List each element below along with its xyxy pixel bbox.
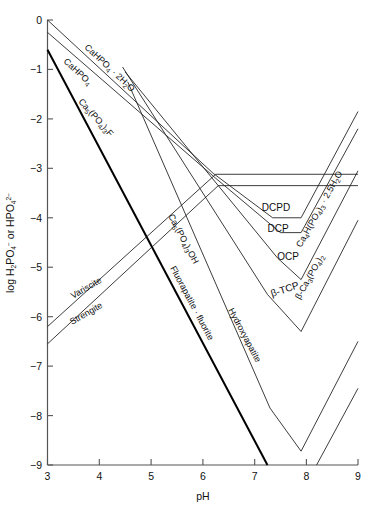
x-tick-label-8: 8 — [303, 470, 309, 482]
y-title-conj: or HPO — [4, 204, 16, 242]
x-axis-title: pH — [196, 490, 209, 502]
label-dcp: DCP — [267, 223, 288, 234]
y-tick-label-1: −1 — [30, 63, 42, 75]
y-tick-label-7: −7 — [30, 360, 42, 372]
phosphate-solubility-chart: 0 −1 −2 −3 −4 −5 −6 −7 −8 −9 3 4 5 6 7 8… — [0, 0, 376, 510]
svg-text:log H2PO4− or HPO42−: log H2PO4− or HPO42− — [4, 193, 17, 293]
x-tick-label-6: 6 — [200, 470, 206, 482]
chart-svg: 0 −1 −2 −3 −4 −5 −6 −7 −8 −9 3 4 5 6 7 8… — [0, 0, 376, 510]
y-tick-label-2: −2 — [30, 113, 42, 125]
y-axis-title: log H2PO4− or HPO42− — [4, 193, 17, 293]
y-title-mid: PO — [4, 250, 16, 265]
y-tick-label-5: −5 — [30, 261, 42, 273]
x-tick-label-7: 7 — [252, 470, 258, 482]
y-title-sup2: 2− — [5, 193, 12, 201]
x-tick-label-3: 3 — [45, 470, 51, 482]
x-tick-label-9: 9 — [355, 470, 361, 482]
y-tick-label-8: −8 — [30, 410, 42, 422]
y-title-lead: log H — [4, 269, 16, 294]
y-tick-label-3: −3 — [30, 162, 42, 174]
y-tick-label-9: −9 — [30, 459, 42, 471]
y-tick-label-4: −4 — [30, 212, 42, 224]
label-ocp: OCP — [277, 251, 299, 262]
y-tick-label-0: 0 — [36, 14, 42, 26]
x-tick-label-4: 4 — [96, 470, 102, 482]
label-dcpd: DCPD — [262, 202, 290, 213]
x-tick-label-5: 5 — [148, 470, 154, 482]
y-tick-label-6: −6 — [30, 311, 42, 323]
